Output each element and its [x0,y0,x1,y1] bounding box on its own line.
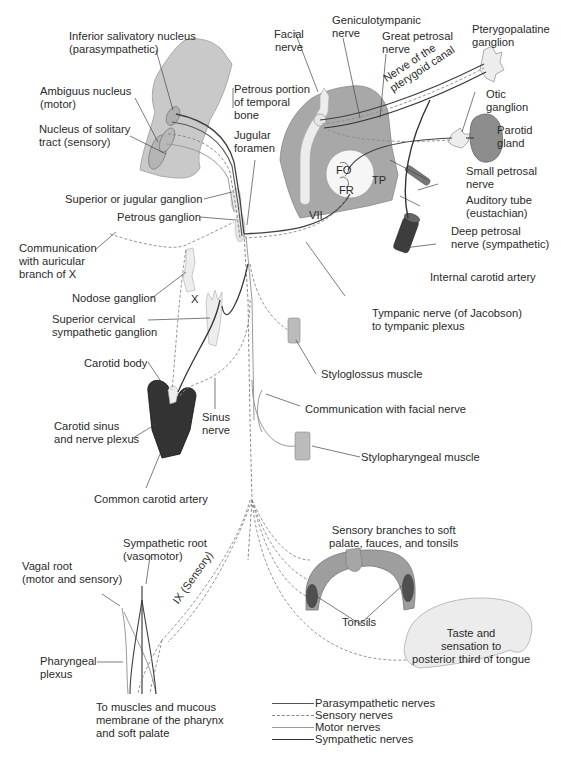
label-to-muscles: To muscles and mucous membrane of the ph… [96,701,223,740]
label-jugular-foramen: Jugular foramen [234,129,275,155]
label-solitary-nucleus: Nucleus of solitary tract (sensory) [39,123,130,149]
legend-swatch-parasympathetic [272,703,314,704]
label-small-petrosal-nerve: Small petrosal nerve [466,165,537,191]
label-fo: FO [336,164,352,177]
legend-item-sensory: Sensory nerves [272,709,435,721]
label-otic-ganglion: Otic ganglion [486,88,528,114]
label-communication-auricular: Communication with auricular branch of X [19,242,97,281]
stylopharyngeal-muscle [295,432,310,460]
auditory-tube [404,165,431,187]
tonsil-right [402,574,414,602]
soft-palate [306,548,415,610]
legend-label: Sensory nerves [315,709,393,721]
label-vagal-root: Vagal root (motor and sensory) [22,560,122,586]
label-petrous-portion: Petrous portion of temporal bone [234,83,310,122]
styloglossus-muscle [288,318,300,343]
label-taste: Taste and sensation to posterior third o… [412,627,530,666]
label-vii: VII [309,209,323,222]
label-tonsils: Tonsils [342,616,376,629]
label-inferior-salivatory-nucleus: Inferior salivatory nucleus (parasympath… [69,30,196,56]
legend: Parasympathetic nerves Sensory nerves Mo… [272,697,435,745]
label-ambiguus-nucleus: Ambiguus nucleus (motor) [40,85,131,111]
legend-swatch-sympathetic [272,739,314,740]
label-x: X [191,293,198,306]
label-communication-facial: Communication with facial nerve [305,403,466,416]
label-common-carotid-artery: Common carotid artery [94,493,208,506]
label-pterygopalatine-ganglion: Pterygopalatine ganglion [472,23,550,49]
brainstem [140,39,232,178]
label-petrous-ganglion: Petrous ganglion [117,211,201,224]
label-sinus-nerve: Sinus nerve [202,411,230,437]
legend-swatch-sensory [272,715,314,716]
legend-item-motor: Motor nerves [272,721,435,733]
label-carotid-sinus: Carotid sinus and nerve plexus [54,420,139,446]
label-sensory-branches: Sensory branches to soft palate, fauces,… [329,524,458,550]
label-styloglossus-muscle: Styloglossus muscle [321,368,422,381]
label-auditory-tube: Auditory tube (eustachian) [466,194,532,220]
nodose-ganglion [183,248,195,292]
uvula [346,548,362,572]
label-tp: TP [372,174,386,187]
label-sympathetic-root: Sympathetic root (vasomotor) [123,537,207,563]
legend-swatch-motor [272,727,314,728]
legend-item-parasympathetic: Parasympathetic nerves [272,697,435,709]
label-carotid-body: Carotid body [84,357,147,370]
label-tympanic-nerve: Tympanic nerve (of Jacobson) to tympanic… [372,307,522,333]
label-facial-nerve: Facial nerve [274,28,304,54]
label-superior-cervical-ganglion: Superior cervical sympathetic ganglion [52,313,157,339]
legend-label: Parasympathetic nerves [315,697,435,709]
label-parotid-gland: Parotid gland [497,124,532,150]
label-internal-carotid-artery: Internal carotid artery [430,271,536,284]
label-nodose-ganglion: Nodose ganglion [72,292,156,305]
label-deep-petrosal-nerve: Deep petrosal nerve (sympathetic) [451,225,549,251]
legend-item-sympathetic: Sympathetic nerves [272,733,435,745]
legend-label: Sympathetic nerves [315,733,413,745]
legend-label: Motor nerves [315,721,380,733]
label-stylopharyngeal-muscle: Stylopharyngeal muscle [361,451,480,464]
label-superior-jugular-ganglion: Superior or jugular ganglion [65,193,202,206]
label-fr: FR [339,184,354,197]
label-pharyngeal-plexus: Pharyngeal plexus [40,655,97,681]
